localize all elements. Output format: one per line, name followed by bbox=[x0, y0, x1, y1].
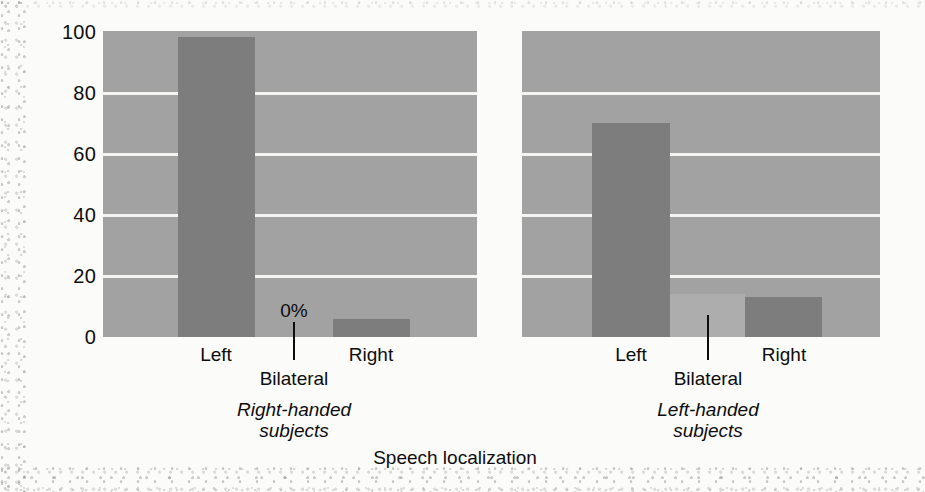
leader-line-bilateral-right-panel bbox=[707, 315, 709, 360]
gridline-60 bbox=[522, 153, 880, 156]
bar-right-handed-left bbox=[178, 37, 255, 337]
panel-right-plot-area bbox=[522, 31, 880, 337]
x-axis-title: Speech localization bbox=[373, 447, 537, 469]
panel-left-plot-area bbox=[103, 31, 477, 337]
gridline-40 bbox=[522, 214, 880, 217]
y-axis-tick-labels: 100 80 60 40 20 0 bbox=[30, 0, 96, 492]
panel-left-handed-subjects bbox=[522, 31, 880, 337]
leader-line-bilateral-left-panel bbox=[293, 322, 295, 360]
group-label-right-handed-line2: subjects bbox=[237, 420, 351, 441]
gridline-40 bbox=[103, 214, 477, 217]
gridline-20 bbox=[103, 275, 477, 278]
y-tick-20: 20 bbox=[34, 265, 96, 288]
panel-right-handed-subjects bbox=[103, 31, 477, 337]
gridline-80 bbox=[103, 92, 477, 95]
group-label-left-handed: Left-handed subjects bbox=[657, 399, 758, 442]
y-tick-100: 100 bbox=[34, 21, 96, 44]
gridline-80 bbox=[522, 92, 880, 95]
y-tick-80: 80 bbox=[34, 82, 96, 105]
gridline-20 bbox=[522, 275, 880, 278]
y-tick-0: 0 bbox=[34, 326, 96, 349]
xtick-right-handed-left: Left bbox=[200, 344, 232, 366]
group-label-left-handed-line2: subjects bbox=[657, 420, 758, 441]
xtick-left-handed-bilateral: Bilateral bbox=[674, 368, 743, 390]
xtick-left-handed-right: Right bbox=[762, 344, 806, 366]
y-tick-40: 40 bbox=[34, 204, 96, 227]
xtick-right-handed-bilateral: Bilateral bbox=[260, 368, 329, 390]
bar-left-handed-left bbox=[592, 123, 670, 337]
gridline-60 bbox=[103, 153, 477, 156]
group-label-right-handed: Right-handed subjects bbox=[237, 399, 351, 442]
xtick-left-handed-left: Left bbox=[615, 344, 647, 366]
group-label-right-handed-line1: Right-handed bbox=[237, 399, 351, 420]
group-label-left-handed-line1: Left-handed bbox=[657, 399, 758, 420]
bar-right-handed-right bbox=[333, 319, 410, 337]
annotation-zero-percent: 0% bbox=[280, 300, 307, 322]
y-tick-60: 60 bbox=[34, 143, 96, 166]
bar-left-handed-right bbox=[745, 297, 822, 337]
speech-localization-bar-chart: Subjects (%) 100 80 60 40 20 0 0% Left B… bbox=[0, 0, 925, 492]
xtick-right-handed-right: Right bbox=[349, 344, 393, 366]
